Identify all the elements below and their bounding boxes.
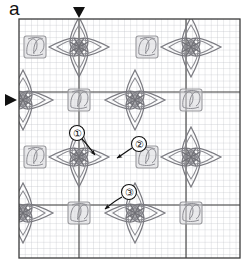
faint-square-motif: [68, 89, 90, 111]
annotation-2-label: ②: [135, 139, 144, 150]
faint-square-motif: [180, 202, 202, 224]
panel-label: a: [9, 0, 20, 20]
annotation-3-label: ③: [125, 187, 134, 198]
faint-square-motif: [24, 36, 46, 58]
faint-square-motif: [68, 202, 90, 224]
faint-square-motif: [24, 146, 46, 168]
faint-square-motif: [180, 89, 202, 111]
faint-square-motif: [136, 36, 158, 58]
annotation-1-label: ①: [73, 128, 82, 139]
lattice-diagram: ① ② ③: [0, 0, 251, 267]
figure-panel: a: [0, 0, 251, 267]
